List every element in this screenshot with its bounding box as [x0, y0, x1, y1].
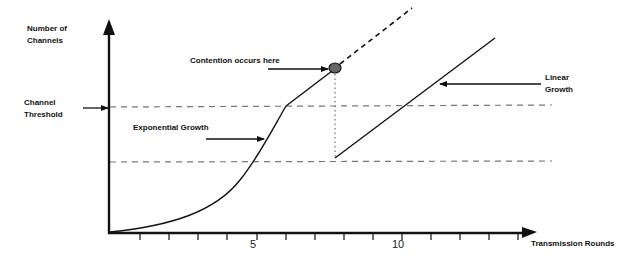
y-axis-label-line1: Number of: [27, 23, 67, 35]
diagram-canvas: [0, 0, 638, 266]
channel-threshold-label: Channel Threshold: [24, 97, 63, 121]
threshold-label-line2: Threshold: [24, 109, 63, 121]
projected-growth-line: [340, 8, 412, 64]
threshold-label-line1: Channel: [24, 97, 63, 109]
reduced-level-line: [110, 161, 552, 162]
linear-label-line2: Growth: [545, 84, 573, 96]
post-threshold-line: [286, 71, 332, 106]
contention-label: Contention occurs here: [190, 55, 280, 67]
linear-growth-label: Linear Growth: [545, 72, 573, 96]
linear-growth-line: [335, 38, 495, 158]
y-axis-arrowhead: [103, 19, 115, 35]
contention-marker: [329, 63, 341, 73]
x-axis-label: Transmission Rounds: [531, 238, 615, 250]
x-axis-arrowhead: [522, 227, 537, 238]
tick-label-5: 5: [250, 238, 256, 250]
y-axis-label: Number of Channels: [27, 23, 67, 47]
tick-label-10: 10: [392, 238, 404, 250]
channel-threshold-line: [110, 105, 552, 107]
exponential-growth-label: Exponential Growth: [133, 122, 209, 134]
y-axis-label-line2: Channels: [27, 35, 67, 47]
linear-label-line1: Linear: [545, 72, 573, 84]
